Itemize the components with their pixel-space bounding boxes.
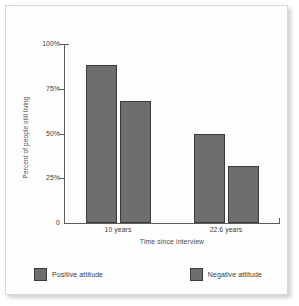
y-axis-tick-label: 0 — [26, 219, 60, 226]
chart-figure-frame: Percent of people still living 025%50%75… — [5, 5, 288, 295]
x-axis-tick-label: 22.6 years — [186, 226, 266, 233]
legend-label: Negative attitude — [208, 271, 262, 278]
bar-positive-attitude-1 — [194, 134, 225, 224]
bar-negative-attitude-0 — [120, 101, 151, 223]
chart-legend: Positive attitudeNegative attitude — [34, 262, 262, 286]
y-axis-tick-label: 50% — [26, 130, 60, 137]
y-axis-tick-label: 100% — [26, 40, 60, 47]
legend-label: Positive attitude — [52, 271, 103, 278]
legend-entry-1[interactable]: Negative attitude — [190, 268, 262, 281]
x-axis-line — [64, 223, 280, 224]
x-axis-end-cap — [279, 218, 280, 224]
y-axis-tick-mark — [59, 89, 64, 90]
x-axis-title: Time since interview — [64, 238, 280, 245]
y-axis-tick-label: 25% — [26, 174, 60, 181]
y-axis-top-cap — [64, 44, 69, 45]
y-axis-tick-label: 75% — [26, 85, 60, 92]
y-axis-tick-labels: 025%50%75%100% — [18, 6, 60, 296]
y-axis-line — [64, 44, 65, 223]
x-axis-tick-label: 10 years — [78, 226, 158, 233]
plot-area: Percent of people still living 025%50%75… — [6, 6, 289, 296]
bar-negative-attitude-1 — [228, 166, 259, 223]
legend-entry-0[interactable]: Positive attitude — [34, 268, 103, 281]
legend-swatch-negative — [190, 268, 203, 281]
y-axis-tick-mark — [59, 44, 64, 45]
y-axis-tick-mark — [59, 178, 64, 179]
bar-positive-attitude-0 — [86, 65, 117, 223]
y-axis-tick-mark — [59, 134, 64, 135]
legend-swatch-positive — [34, 268, 47, 281]
